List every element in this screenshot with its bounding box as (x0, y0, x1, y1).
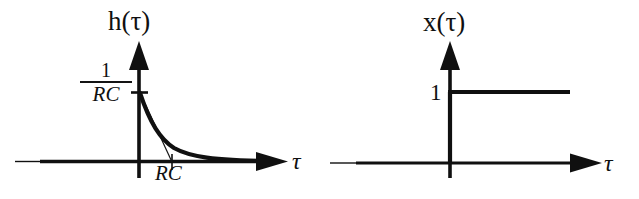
left-time-constant-label: RC (155, 163, 182, 184)
left-exponential-curve (140, 93, 268, 161)
right-function-label: x(τ) (423, 9, 465, 36)
right-x-axis-arrowhead (570, 154, 602, 173)
left-y-axis-arrowhead (129, 41, 149, 70)
unit-step-plot (320, 0, 639, 199)
left-y-axis-denominator: RC (80, 83, 132, 105)
right-x-axis-label: τ (604, 151, 613, 175)
left-y-axis-numerator: 1 (80, 60, 132, 81)
figure-canvas: h(τ) 1 RC RC τ x(τ) 1 τ (0, 0, 639, 199)
left-y-axis-value-fraction: 1 RC (80, 60, 132, 105)
right-y-axis-arrowhead (440, 41, 460, 70)
right-level-label: 1 (430, 81, 442, 104)
left-function-label: h(τ) (108, 8, 150, 35)
left-x-axis-label: τ (292, 149, 301, 173)
